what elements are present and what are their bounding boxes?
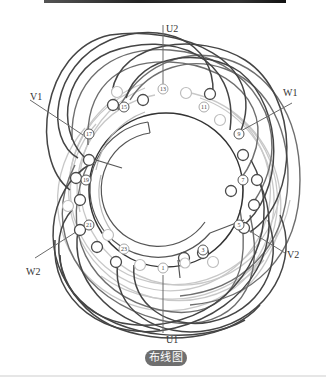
- svg-text:21: 21: [86, 222, 92, 228]
- dark-coils: [47, 32, 287, 338]
- svg-text:23: 23: [121, 246, 127, 252]
- svg-text:1: 1: [162, 265, 165, 271]
- caption-badge: 布线图: [145, 350, 187, 366]
- slot-17: 17: [84, 129, 94, 139]
- bottom-divider: [0, 375, 326, 377]
- terminal-u2: U2: [166, 23, 178, 34]
- svg-text:9: 9: [238, 131, 241, 137]
- svg-text:11: 11: [201, 104, 207, 110]
- svg-text:15: 15: [121, 104, 127, 110]
- svg-text:19: 19: [83, 177, 89, 183]
- svg-text:3: 3: [202, 247, 205, 253]
- terminal-w2: W2: [26, 266, 40, 277]
- slot-15: 15: [119, 102, 129, 112]
- slot-11: 11: [199, 102, 209, 112]
- svg-text:13: 13: [160, 86, 166, 92]
- slot-5: 5: [234, 220, 244, 230]
- terminal-v2: V2: [287, 249, 299, 260]
- svg-text:5: 5: [238, 222, 241, 228]
- light-coils: [58, 84, 290, 311]
- stator-rings: [89, 112, 244, 278]
- slot-9: 9: [234, 129, 244, 139]
- terminal-u1: U1: [166, 334, 178, 345]
- svg-text:17: 17: [86, 131, 92, 137]
- slot-3: 3: [198, 245, 208, 255]
- slot-21: 21: [84, 220, 94, 230]
- terminal-v1: V1: [30, 91, 42, 102]
- winding-diagram: 13 15 11 17 9 19 7 21 5 23 3 1 U2 U1 V1 …: [0, 0, 326, 378]
- slot-19: 19: [81, 175, 91, 185]
- svg-text:7: 7: [242, 177, 245, 183]
- slot-7: 7: [238, 175, 248, 185]
- slot-13: 13: [158, 84, 168, 94]
- terminal-w1: W1: [283, 87, 297, 98]
- slot-23: 23: [119, 244, 129, 254]
- slot-1: 1: [158, 263, 168, 273]
